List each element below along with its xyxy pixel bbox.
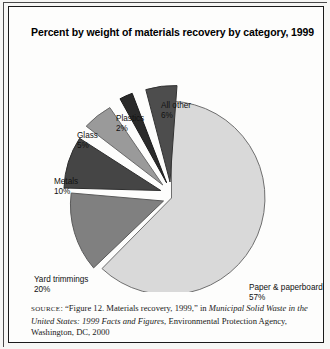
pie-label-paper: Paper & paperboard 57%: [249, 283, 323, 302]
pie-label-allother-name: All other: [161, 101, 191, 110]
pie-chart-svg: [17, 47, 330, 292]
pie-label-paper-name: Paper & paperboard: [249, 283, 323, 292]
pie-label-glass-pct: 5%: [77, 141, 98, 151]
pie-label-plastics: Plastics 2%: [116, 114, 144, 133]
figure-frame: Percent by weight of materials recovery …: [8, 6, 324, 343]
pie-label-yard-pct: 20%: [34, 285, 88, 295]
pie-label-metals: Metals 10%: [54, 177, 78, 196]
source-label: SOURCE: [31, 305, 60, 313]
page-edge-left: [3, 2, 4, 347]
pie-label-glass-name: Glass: [77, 131, 98, 140]
figure-title: Percent by weight of materials recovery …: [31, 26, 321, 39]
source-in: in: [198, 303, 209, 313]
page-edge-top: [3, 2, 327, 3]
pie-chart: All other 6% Plastics 2% Glass 5% Metals…: [17, 47, 330, 292]
pie-label-glass: Glass 5%: [77, 131, 98, 150]
pie-label-metals-name: Metals: [54, 177, 78, 186]
pie-label-allother-pct: 6%: [161, 111, 191, 121]
source-quote: “Figure 12. Materials recovery, 1999,”: [65, 303, 198, 313]
pie-label-yard: Yard trimmings 20%: [34, 275, 88, 294]
figure-source: SOURCE: “Figure 12. Materials recovery, …: [31, 303, 317, 339]
pie-label-allother: All other 6%: [161, 101, 191, 120]
pie-label-yard-name: Yard trimmings: [34, 275, 88, 284]
figure-container: Percent by weight of materials recovery …: [0, 0, 330, 349]
pie-label-plastics-pct: 2%: [116, 124, 144, 134]
pie-label-paper-pct: 57%: [249, 293, 323, 303]
pie-label-metals-pct: 10%: [54, 187, 78, 197]
pie-label-plastics-name: Plastics: [116, 114, 144, 123]
